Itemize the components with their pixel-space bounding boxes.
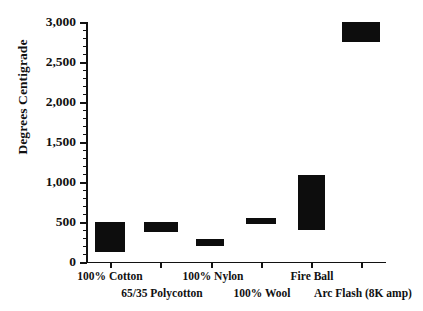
- y-minor-tick: [83, 254, 88, 255]
- x-axis-label-nylon: 100% Nylon: [182, 271, 243, 283]
- y-axis-label-0: 0: [16, 255, 76, 269]
- y-minor-tick: [83, 158, 88, 159]
- y-axis-label-3000: 3,000: [16, 15, 76, 29]
- x-axis-label-arcflash: Arc Flash (8K amp): [314, 288, 412, 300]
- y-tick-1000: [80, 182, 87, 184]
- bar-wool: [246, 218, 276, 224]
- y-minor-tick: [83, 246, 88, 247]
- bar-arcflash: [342, 22, 380, 42]
- bar-nylon: [196, 239, 224, 246]
- x-axis-label-wool: 100% Wool: [234, 288, 291, 300]
- x-tick-nylon: [211, 262, 213, 268]
- y-minor-tick: [83, 206, 88, 207]
- bar-polycotton: [144, 222, 178, 232]
- bar-fireball: [298, 175, 325, 230]
- y-tick-500: [80, 222, 87, 224]
- y-minor-tick: [83, 30, 88, 31]
- x-tick-cotton: [110, 262, 112, 268]
- y-tick-0: [80, 262, 87, 264]
- x-tick-arcflash: [361, 262, 363, 268]
- y-minor-tick: [83, 126, 88, 127]
- y-axis-label-1500: 1,500: [16, 135, 76, 149]
- x-axis-label-polycotton: 65/35 Polycotton: [121, 288, 202, 300]
- y-minor-tick: [83, 110, 88, 111]
- y-minor-tick: [83, 78, 88, 79]
- y-minor-tick: [83, 198, 88, 199]
- y-minor-tick: [83, 150, 88, 151]
- y-minor-tick: [83, 118, 88, 119]
- y-minor-tick: [83, 174, 88, 175]
- y-minor-tick: [83, 190, 88, 191]
- x-tick-polycotton: [160, 262, 162, 268]
- y-axis-label-1000: 1,000: [16, 175, 76, 189]
- x-tick-wool: [261, 262, 263, 268]
- y-minor-tick: [83, 70, 88, 71]
- y-minor-tick: [83, 230, 88, 231]
- y-minor-tick: [83, 54, 88, 55]
- chart-container: Degrees Centigrade 3,000 2,500 2,000 1,5…: [0, 0, 423, 311]
- y-minor-tick: [83, 238, 88, 239]
- y-tick-1500: [80, 142, 87, 144]
- y-axis-label-2000: 2,000: [16, 95, 76, 109]
- y-minor-tick: [83, 86, 88, 87]
- y-axis-label-500: 500: [16, 215, 76, 229]
- y-minor-tick: [83, 38, 88, 39]
- x-axis-line: [86, 262, 386, 264]
- x-tick-fireball: [311, 262, 313, 268]
- y-axis-label-2500: 2,500: [16, 55, 76, 69]
- y-minor-tick: [83, 46, 88, 47]
- y-minor-tick: [83, 214, 88, 215]
- x-axis-label-fireball: Fire Ball: [291, 271, 334, 283]
- bar-cotton: [95, 222, 125, 252]
- x-axis-label-cotton: 100% Cotton: [77, 271, 143, 283]
- y-minor-tick: [83, 134, 88, 135]
- y-tick-2000: [80, 102, 87, 104]
- y-tick-3000: [80, 22, 87, 24]
- y-minor-tick: [83, 166, 88, 167]
- y-tick-2500: [80, 62, 87, 64]
- y-minor-tick: [83, 94, 88, 95]
